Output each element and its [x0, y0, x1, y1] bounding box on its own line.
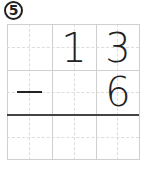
answer-area[interactable] — [7, 116, 139, 159]
minus-sign-icon — [17, 91, 42, 93]
answer-grid: 1 3 6 — [7, 24, 139, 160]
subtrahend-ones-digit: 6 — [96, 72, 140, 112]
grid-line — [7, 159, 139, 160]
problem-number-badge: 5 — [4, 1, 23, 20]
minuend-tens-digit: 1 — [52, 28, 96, 68]
minuend-ones-digit: 3 — [96, 28, 140, 68]
